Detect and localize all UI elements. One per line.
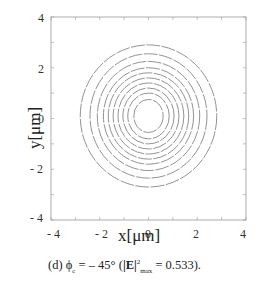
x-tick-4: 4 xyxy=(240,228,246,240)
contour-line xyxy=(108,73,188,159)
contour-lines xyxy=(80,45,217,187)
contour-line xyxy=(113,78,184,154)
y-tick-4: 4 xyxy=(38,12,44,24)
caption-equals: = – 45° ( xyxy=(75,258,122,272)
caption-e-sup: 2 xyxy=(137,258,141,266)
x-tick-neg2: - 2 xyxy=(95,228,108,240)
x-axis-label: x[μm] xyxy=(118,226,160,246)
y-tick-neg2: - 2 xyxy=(30,163,43,175)
caption-prefix: (d) xyxy=(48,258,66,272)
y-axis-label: y[μm] xyxy=(25,103,45,153)
contour-line xyxy=(123,88,174,144)
contour-line xyxy=(134,99,163,132)
y-tick-2: 2 xyxy=(38,63,44,75)
caption-e-sub: max xyxy=(140,267,152,275)
y-tick-neg4: - 4 xyxy=(30,212,43,224)
caption-suffix: = 0.533). xyxy=(152,258,201,272)
contour-line xyxy=(80,45,217,187)
x-tick-2: 2 xyxy=(193,228,199,240)
figure-caption: (d) ϕc = – 45° (|E|2max = 0.533). xyxy=(48,258,201,275)
caption-e-label: |E| xyxy=(123,258,137,272)
contour-line xyxy=(103,68,193,164)
x-tick-neg4: - 4 xyxy=(47,228,60,240)
